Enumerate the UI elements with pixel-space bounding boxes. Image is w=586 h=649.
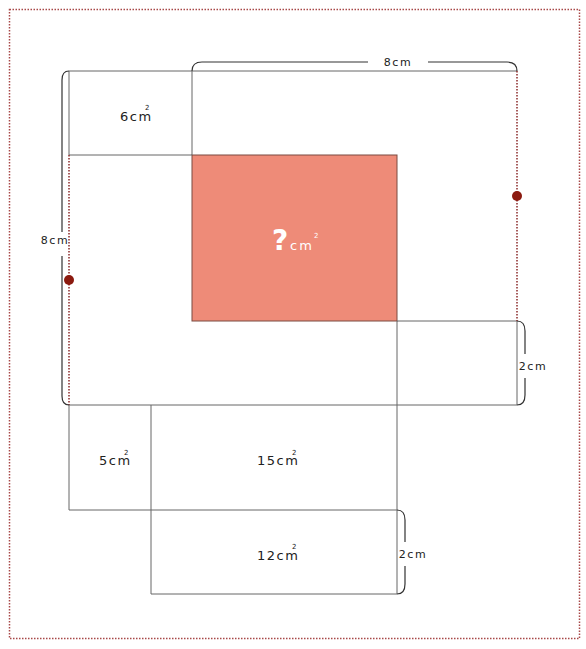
svg-text:2: 2	[314, 232, 318, 240]
area-label-bottom-mid: 15cm 2	[257, 449, 299, 468]
area-label-bottom: 12cm 2	[257, 543, 299, 563]
dim-bottom-right-label: 2cm	[399, 548, 427, 561]
dimension-brackets	[62, 62, 525, 594]
svg-text:?: ?	[272, 224, 288, 257]
svg-text:2: 2	[292, 449, 298, 457]
structure-lines	[69, 71, 517, 594]
svg-text:2: 2	[145, 104, 151, 112]
hinge-dot-right	[512, 191, 522, 201]
dim-left-label: 8cm	[41, 234, 69, 247]
area-label-bottom-left: 5cm 2	[99, 449, 132, 468]
area-label-top-left: 6cm 2	[120, 104, 153, 124]
hinge-dot-left	[64, 275, 74, 285]
dim-top-label: 8cm	[384, 56, 412, 69]
area-diagram: 8cm 8cm 2cm 2cm 6cm 2 ? cm 2 5cm 2 15cm …	[0, 0, 586, 649]
svg-text:2: 2	[124, 449, 130, 457]
svg-text:cm: cm	[290, 238, 314, 253]
dim-right-label: 2cm	[519, 360, 547, 373]
svg-text:2: 2	[292, 543, 298, 551]
